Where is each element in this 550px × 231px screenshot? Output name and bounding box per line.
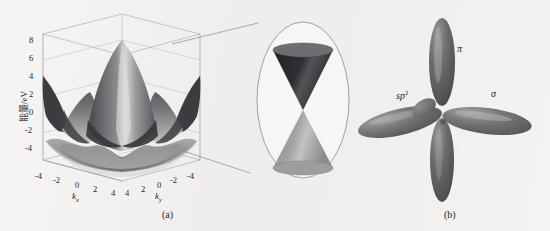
sigma-orbital-lobe-right bbox=[441, 103, 533, 140]
figure-root: 8 6 4 2 0 -2 -4 能量/eV -4 -2 0 2 4 kx 4 2… bbox=[0, 0, 550, 231]
z-tick-8: 8 bbox=[29, 36, 33, 45]
band-structure-surface bbox=[43, 40, 201, 177]
x-axis-label: kx bbox=[72, 192, 79, 203]
z-tick-neg2: -2 bbox=[25, 126, 32, 135]
y-tick-neg2: -2 bbox=[170, 176, 177, 185]
z-tick-neg4: -4 bbox=[25, 144, 32, 153]
sigma-orbital-label: σ bbox=[491, 89, 496, 99]
sp2-orbital-label-text: sp bbox=[396, 90, 405, 101]
pi-orbital-lobe-down bbox=[430, 118, 454, 202]
z-tick-6: 6 bbox=[29, 54, 33, 63]
orbital-center-node bbox=[440, 119, 445, 124]
y-tick-0: 0 bbox=[157, 181, 161, 190]
y-tick-2: 2 bbox=[141, 185, 145, 194]
z-axis-label: 能量/eV bbox=[20, 91, 29, 122]
z-tick-0: 0 bbox=[29, 108, 33, 117]
x-axis-label-sub: x bbox=[76, 196, 79, 203]
z-tick-2: 2 bbox=[29, 90, 33, 99]
dirac-cone-inset bbox=[257, 22, 349, 178]
x-tick-neg4: -4 bbox=[35, 172, 42, 181]
x-tick-4: 4 bbox=[111, 189, 115, 198]
panel-b-caption: (b) bbox=[444, 210, 456, 220]
pi-orbital-label: π bbox=[457, 44, 462, 54]
x-tick-neg2: -2 bbox=[53, 176, 60, 185]
y-axis-label: ky bbox=[155, 192, 162, 203]
y-tick-4: 4 bbox=[125, 189, 129, 198]
x-tick-0: 0 bbox=[75, 181, 79, 190]
sp2-orbital-label-sup: 2 bbox=[405, 89, 408, 96]
panel-a-caption: (a) bbox=[162, 210, 173, 220]
pi-orbital-lobe-up bbox=[429, 18, 455, 106]
y-tick-neg4: -4 bbox=[187, 172, 194, 181]
x-tick-2: 2 bbox=[93, 185, 97, 194]
z-tick-4: 4 bbox=[29, 72, 33, 81]
y-axis-label-sub: y bbox=[159, 196, 162, 203]
orbital-diagram bbox=[355, 18, 533, 202]
sp2-orbital-label: sp2 bbox=[396, 90, 408, 101]
figure-canvas bbox=[0, 0, 550, 231]
